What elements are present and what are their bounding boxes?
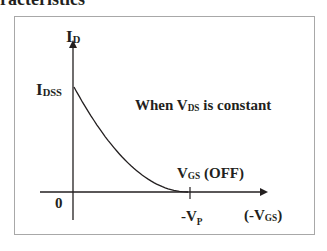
idss-label: IDSS [36,81,62,98]
x-axis-label-suffix: ) [277,207,282,223]
condition-label-suffix: is constant [200,97,272,113]
vgs-off-label-prefix: V [177,165,188,181]
x-axis-label-sub: GS [265,213,277,223]
x-axis-label-prefix: (-V [244,207,265,223]
vp-label: -VP [181,209,203,224]
condition-label-sub: DS [188,103,200,113]
y-axis-label: ID [66,28,80,45]
condition-label: When VDS is constant [135,98,271,113]
vp-label-prefix: -V [181,208,197,224]
origin-label: 0 [55,196,63,211]
x-axis-label: (-VGS) [244,208,282,223]
vp-label-sub: P [197,217,203,227]
idss-label-sub: DSS [43,87,62,98]
y-axis-label-sub: D [73,34,81,45]
vgs-off-label-suffix: (OFF) [200,165,244,181]
y-axis-label-main: I [66,27,73,46]
vgs-off-label: VGS (OFF) [177,166,244,181]
idss-label-main: I [36,80,43,99]
condition-label-prefix: When V [135,97,188,113]
vgs-off-label-sub: GS [188,171,200,181]
